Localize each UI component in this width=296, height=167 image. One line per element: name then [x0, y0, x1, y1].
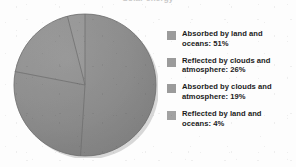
legend-item[interactable]: Absorbed by land and oceans: 51% [167, 29, 295, 49]
legend-item[interactable]: Reflected by clouds and atmosphere: 26% [167, 56, 295, 76]
legend-label-line2: oceans: 4% [182, 119, 290, 129]
legend-label-line1: Reflected by clouds and [182, 56, 271, 65]
pie-slice-absorbed-land-oceans [81, 14, 156, 156]
chart-legend: Absorbed by land and oceans: 51% Reflect… [167, 29, 295, 135]
pie-chart-graphic [12, 12, 158, 158]
legend-label: Reflected by land and oceans: 4% [182, 109, 290, 129]
chart-title-fragment: Solar energy [0, 0, 296, 3]
legend-swatch-absorbed-land-oceans [167, 31, 176, 40]
legend-label: Absorbed by clouds and atmosphere: 19% [182, 82, 290, 102]
legend-label: Reflected by clouds and atmosphere: 26% [182, 56, 290, 76]
legend-label: Absorbed by land and oceans: 51% [182, 29, 290, 49]
legend-swatch-reflected-land-oceans [167, 111, 176, 120]
legend-item[interactable]: Reflected by land and oceans: 4% [167, 109, 295, 129]
legend-item[interactable]: Absorbed by clouds and atmosphere: 19% [167, 82, 295, 102]
legend-label-line2: atmosphere: 19% [182, 92, 290, 102]
legend-label-line1: Absorbed by land and [182, 29, 263, 38]
pie-slice-reflected-clouds-atmosphere [14, 72, 85, 156]
legend-label-line2: oceans: 51% [182, 39, 290, 49]
legend-label-line2: atmosphere: 26% [182, 65, 290, 75]
legend-swatch-reflected-clouds-atmosphere [167, 58, 176, 67]
legend-swatch-absorbed-clouds-atmosphere [167, 84, 176, 93]
legend-label-line1: Reflected by land and [182, 109, 262, 118]
legend-label-line1: Absorbed by clouds and [182, 82, 272, 91]
pie-chart-figure: Solar energy [0, 0, 296, 167]
pie-svg [12, 12, 158, 158]
